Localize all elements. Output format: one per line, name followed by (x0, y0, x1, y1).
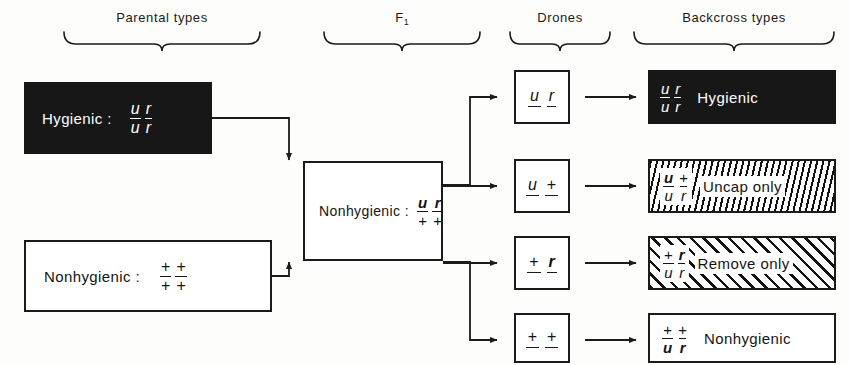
genotype-den: u (663, 263, 673, 280)
genotype-num: + (663, 247, 674, 263)
allele: + (526, 329, 539, 348)
backcross-remove-genotype: +u rr (660, 245, 689, 282)
genotype-den: r (145, 118, 152, 136)
drone-ur-alleles: u r (528, 88, 556, 107)
allele: r (547, 254, 557, 273)
genotype-den: + (432, 211, 443, 228)
drone-box-plusplus: + + (514, 313, 570, 363)
parent-box-nonhygienic: Nonhygienic : ++ ++ (24, 240, 272, 312)
genotype-num: + (678, 170, 689, 186)
backcross-uncap-label: Uncap only (700, 176, 785, 197)
genotype-num: + (677, 322, 688, 338)
drone-box-plusr: + r (514, 236, 570, 290)
genotype-den: u (662, 338, 673, 355)
parent-nonhygienic-label: Nonhygienic : (44, 268, 140, 285)
drone-box-ur: u r (514, 70, 570, 124)
backcross-box-hygienic: uu rr Hygienic (648, 70, 836, 124)
allele: + (527, 254, 540, 273)
parent-hygienic-genotype: uu rr (130, 101, 152, 136)
backcross-hygienic-label: Hygienic (697, 89, 758, 106)
drone-uplus-alleles: u + (526, 177, 558, 196)
genotype-den: r (680, 186, 687, 203)
genotype-num: r (434, 195, 442, 211)
genotype-den: u (130, 118, 141, 136)
backcross-nonhygienic-label: Nonhygienic (704, 330, 791, 347)
f1-label: Nonhygienic : (319, 203, 409, 219)
genotype-den: + (160, 276, 171, 294)
genotype-num: u (130, 101, 141, 118)
allele: + (545, 177, 558, 196)
backcross-uncap-genotype: uu +r (660, 168, 692, 205)
drone-box-uplus: u + (514, 159, 570, 213)
backcross-hygienic-genotype: uu rr (660, 81, 681, 114)
f1-genotype: u+ r+ (417, 195, 443, 228)
allele: u (526, 177, 539, 196)
backcross-box-nonhygienic: +u +r Nonhygienic (648, 313, 836, 363)
genotype-num: r (678, 247, 686, 263)
f1-box-nonhygienic: Nonhygienic : u+ r+ (303, 161, 443, 261)
genotype-num: u (660, 81, 670, 97)
genotype-den: r (674, 97, 681, 114)
parent-box-hygienic: Hygienic : uu rr (24, 82, 212, 154)
genotype-den: u (660, 97, 670, 114)
genotype-num: r (674, 81, 681, 97)
backcross-box-uncap-only: uu +r Uncap only (648, 159, 836, 213)
parent-hygienic-label: Hygienic : (42, 110, 112, 127)
genotype-den: r (678, 263, 685, 280)
backcross-box-remove-only: +u rr Remove only (648, 236, 836, 290)
parent-nonhygienic-genotype: ++ ++ (160, 259, 187, 294)
allele: r (547, 88, 556, 107)
drone-plusplus-alleles: + + (526, 329, 559, 348)
genotype-num: + (175, 259, 186, 276)
genotype-num: + (160, 259, 171, 276)
backcross-remove-label: Remove only (695, 253, 793, 274)
allele: u (528, 88, 541, 107)
genotype-num: u (663, 170, 674, 186)
hygienic-behavior-genetics-diagram: Parental types F1 Drones Backcross types (0, 0, 849, 365)
genotype-num: + (662, 322, 673, 338)
genotype-den: + (417, 211, 428, 228)
genotype-den: u (663, 186, 673, 203)
genotype-num: r (145, 101, 152, 118)
backcross-nonhygienic-genotype: +u +r (662, 322, 688, 355)
genotype-num: u (417, 195, 428, 211)
genotype-den: r (679, 338, 687, 355)
drone-plusr-alleles: + r (527, 254, 557, 273)
allele: + (545, 329, 558, 348)
genotype-den: + (175, 276, 186, 294)
